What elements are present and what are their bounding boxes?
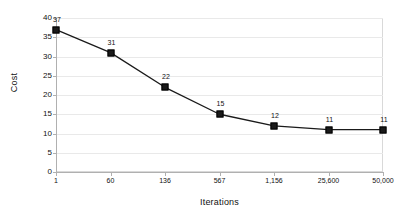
gridline <box>56 153 383 154</box>
x-axis-tick-label: 1,156 <box>265 177 283 184</box>
x-axis-tick-mark <box>329 173 330 176</box>
data-point-marker <box>380 126 387 133</box>
x-axis-tick-label: 136 <box>159 177 171 184</box>
data-point-label: 12 <box>271 112 279 119</box>
x-axis-tick-mark <box>274 173 275 176</box>
data-point-marker <box>325 126 332 133</box>
y-axis-tick-label: 35 <box>0 33 52 41</box>
cost-vs-iterations-chart: 4035302520151050 1601365671,15625,60050,… <box>0 0 414 218</box>
data-point-label: 31 <box>108 39 116 46</box>
gridline <box>56 57 383 58</box>
y-axis-tick-label: 20 <box>0 91 52 99</box>
y-axis-title: Cost <box>10 53 19 113</box>
data-point-label: 11 <box>326 116 333 123</box>
y-axis-tick-label: 15 <box>0 110 52 118</box>
x-axis-tick-label: 25,600 <box>318 177 339 184</box>
x-axis-tick-label: 60 <box>107 177 115 184</box>
data-point-marker <box>216 111 223 118</box>
gridline <box>56 134 383 135</box>
x-axis-tick-label: 50,000 <box>372 177 393 184</box>
data-point-marker <box>107 49 114 56</box>
x-axis-tick-mark <box>165 173 166 176</box>
data-point-marker <box>162 84 169 91</box>
y-axis-tick-label: 10 <box>0 130 52 138</box>
y-axis-line <box>56 18 57 173</box>
x-axis-title: Iterations <box>56 198 383 207</box>
gridline <box>56 95 383 96</box>
y-axis-tick-mark <box>53 114 56 115</box>
data-point-label: 22 <box>162 73 170 80</box>
x-axis-tick-mark <box>56 173 57 176</box>
x-axis-tick-label: 567 <box>214 177 226 184</box>
y-axis-tick-mark <box>53 57 56 58</box>
data-point-marker <box>53 26 60 33</box>
data-point-label: 37 <box>53 16 61 23</box>
x-axis-tick-label: 1 <box>54 177 58 184</box>
y-axis-tick-mark <box>53 76 56 77</box>
data-point-label: 11 <box>380 116 387 123</box>
y-axis-tick-label: 40 <box>0 14 52 22</box>
y-axis-tick-mark <box>53 95 56 96</box>
data-point-label: 15 <box>217 100 225 107</box>
y-axis-tick-mark <box>53 37 56 38</box>
gridline <box>56 18 383 19</box>
x-axis-tick-mark <box>111 173 112 176</box>
x-axis-tick-mark <box>220 173 221 176</box>
data-point-marker <box>271 122 278 129</box>
gridline <box>56 76 383 77</box>
y-axis-tick-label: 5 <box>0 149 52 157</box>
y-axis-tick-label: 30 <box>0 53 52 61</box>
gridline <box>56 37 383 38</box>
y-axis-tick-label: 0 <box>0 168 52 176</box>
y-axis-tick-mark <box>53 153 56 154</box>
x-axis-tick-mark <box>383 173 384 176</box>
y-axis-tick-mark <box>53 134 56 135</box>
